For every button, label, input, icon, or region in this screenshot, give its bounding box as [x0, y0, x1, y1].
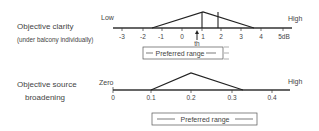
clarity-triangle — [152, 12, 254, 28]
svg-text:2: 2 — [219, 33, 223, 40]
svg-text:3: 3 — [239, 33, 243, 40]
svg-text:1: 1 — [201, 33, 205, 40]
svg-text:4: 4 — [259, 33, 263, 40]
svg-text:0.1: 0.1 — [146, 94, 155, 101]
clarity-preferred-range-label: Preferred range — [155, 50, 204, 58]
svg-text:0: 0 — [111, 94, 115, 101]
broadening-triangle — [151, 73, 243, 90]
broadening-preferred-range-label: Preferred range — [180, 116, 229, 124]
clarity-axis — [113, 28, 292, 31]
svg-text:-1: -1 — [158, 33, 164, 40]
broadening-tick-labels: 0 0.1 0.2 0.3 0.4 — [111, 94, 277, 101]
svg-text:0: 0 — [180, 33, 184, 40]
svg-text:-2: -2 — [140, 33, 146, 40]
threshold-arrow-icon — [195, 30, 199, 40]
svg-text:0.2: 0.2 — [186, 94, 195, 101]
svg-text:5dB: 5dB — [278, 33, 290, 40]
clarity-tick-labels: -3 -2 -1 0 1 2 3 4 5dB — [119, 33, 290, 40]
svg-text:0.4: 0.4 — [267, 94, 276, 101]
diagram-graphics: -3 -2 -1 0 1 2 3 4 5dB th Preferred rang… — [0, 0, 319, 131]
svg-text:-3: -3 — [119, 33, 125, 40]
svg-text:0.3: 0.3 — [227, 94, 236, 101]
threshold-label: th — [194, 40, 200, 47]
broadening-axis — [113, 87, 290, 93]
